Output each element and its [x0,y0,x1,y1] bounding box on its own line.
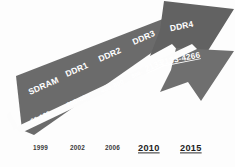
year-label-2002: 2002 [70,144,85,151]
year-label-2010: 2010 [138,143,160,153]
divider-stripe-tail [6,112,18,130]
year-label-2015: 2015 [180,143,202,153]
year-label-2006: 2006 [105,144,120,151]
ddr-timeline-figure: SDRAM DDR1 DDR2 DDR3 DDR4 66-133 200-400… [0,0,235,167]
year-label-1999: 1999 [33,144,48,151]
timeline-arrow-diagram: SDRAM DDR1 DDR2 DDR3 DDR4 66-133 200-400… [0,0,235,167]
label-speed-ddr3-prefix: 800- [131,69,144,79]
